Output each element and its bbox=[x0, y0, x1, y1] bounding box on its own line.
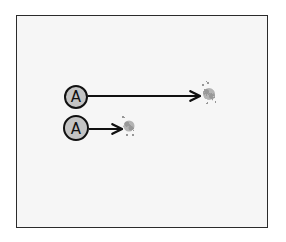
product-cloud-near-icon bbox=[122, 116, 135, 136]
particle-a-short: A bbox=[64, 116, 88, 140]
node-label: A bbox=[71, 88, 82, 106]
node-label: A bbox=[71, 120, 82, 138]
product-cloud-far-icon bbox=[202, 82, 216, 104]
particle-a-long: A bbox=[65, 86, 87, 108]
reaction-diagram: A A bbox=[0, 0, 286, 242]
